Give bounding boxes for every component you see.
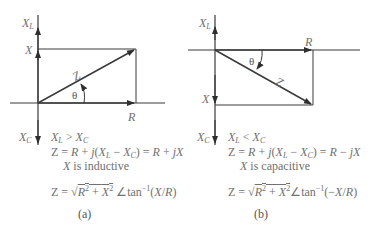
xc-label-a: XC bbox=[19, 131, 32, 145]
panel-b-diagram bbox=[188, 15, 360, 145]
equation1-a: Z = R + j(XL − XC) = R + jX bbox=[51, 146, 183, 160]
condition-b: XL < XC bbox=[228, 131, 265, 145]
condition-a: XL > XC bbox=[51, 131, 88, 145]
equation1-b: Z = R + j(XL − XC) = R − jX bbox=[228, 146, 360, 160]
xc-label-b: XC bbox=[197, 131, 210, 145]
theta-arc bbox=[257, 50, 262, 69]
equation2-a: Z = √R2 + X2 ∠tan−1(X/R) bbox=[51, 185, 176, 198]
r-label-b: R bbox=[305, 36, 312, 48]
z-phasor-arrow bbox=[38, 50, 134, 103]
reactance-type-b: X is capacitive bbox=[240, 160, 310, 172]
x-label-b: X bbox=[202, 93, 209, 105]
equation2-b: Z = √R2 + X2∠tan−1(−X/R) bbox=[228, 185, 357, 198]
theta-label-b: θ bbox=[249, 56, 254, 67]
xl-label-a: XL bbox=[22, 17, 34, 31]
caption-b: (b) bbox=[254, 208, 268, 220]
xl-label-b: XL bbox=[199, 17, 211, 31]
x-label-a: X bbox=[25, 44, 32, 56]
theta-label-a: θ bbox=[72, 90, 77, 101]
reactance-type-a: X is inductive bbox=[63, 160, 129, 172]
theta-arc bbox=[81, 84, 85, 103]
caption-a: (a) bbox=[78, 208, 91, 220]
panel-a-diagram bbox=[10, 15, 165, 145]
r-label-a: R bbox=[128, 111, 135, 123]
z-phasor-arrow bbox=[215, 50, 311, 104]
